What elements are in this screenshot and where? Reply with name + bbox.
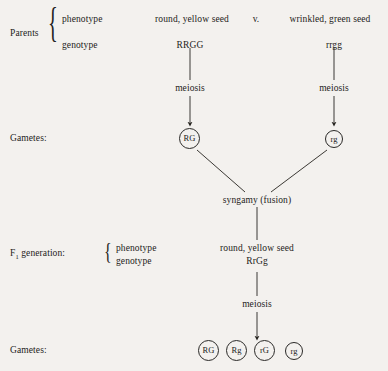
parent-right-genotype: rrgg [326,40,342,51]
gamete-label: RG [203,346,215,355]
f1-brace: { [104,240,112,263]
gamete-rg-parent: rg [325,130,343,148]
f1-phenotype-value: round, yellow seed [220,243,294,254]
gamete-label: rg [291,346,298,355]
gamete-rg-f1: rg [285,342,303,360]
parents-phenotype-label: phenotype [62,14,102,25]
connector-lines [0,0,388,371]
genetics-cross-diagram: Parents { phenotype genotype round, yell… [0,0,388,371]
gamete-label: rG [260,346,269,355]
gametes-label-top: Gametes: [10,133,47,144]
f1-genotype-label: genotype [116,256,152,267]
gamete-RG-f1: RG [198,340,219,361]
f1-genotype-value: RrGg [246,256,268,267]
gamete-RG-parent: RG [179,128,200,149]
versus-label: v. [253,14,260,25]
gamete-Rg-f1: Rg [226,340,247,361]
meiosis-left-label: meiosis [175,83,205,94]
f1-suffix: generation: [19,248,65,258]
f1-phenotype-label: phenotype [116,243,156,254]
gamete-rG-f1: rG [254,340,275,361]
syngamy-label: syngamy (fusion) [223,195,291,206]
f1-generation-label: F1 generation: [10,248,65,260]
parents-label: Parents [10,28,39,39]
parents-genotype-label: genotype [62,40,98,51]
gamete-label: Rg [232,346,242,355]
meiosis-right-label: meiosis [319,83,349,94]
parents-brace: { [48,1,58,43]
parent-left-phenotype: round, yellow seed [155,14,229,25]
gamete-label: RG [184,134,196,143]
parent-right-phenotype: wrinkled, green seed [290,14,371,25]
meiosis-f1-label: meiosis [242,299,272,310]
parent-left-genotype: RRGG [177,40,204,51]
gametes-label-bottom: Gametes: [10,345,47,356]
gamete-label: rg [331,134,338,143]
